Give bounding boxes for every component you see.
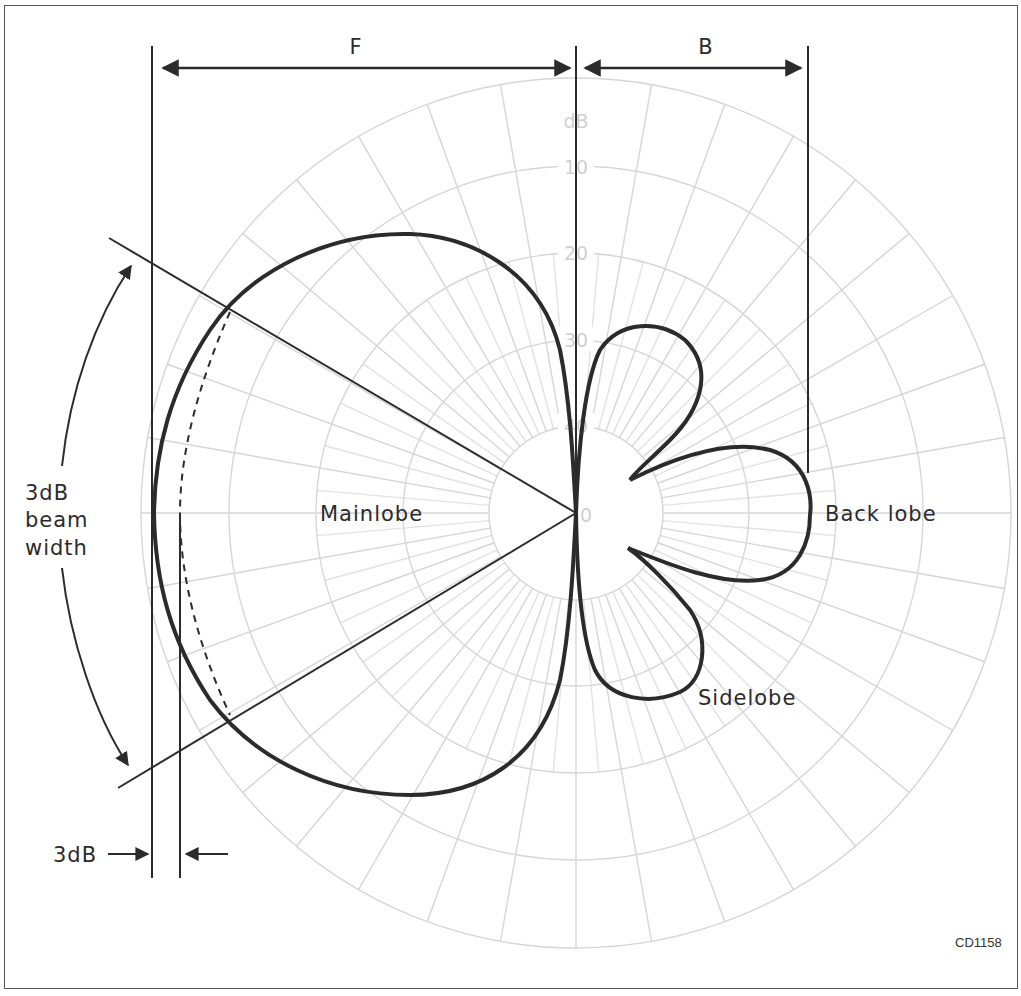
lower-side-lobe-curve bbox=[576, 513, 702, 699]
main-lobe-label: Mainlobe bbox=[320, 502, 423, 526]
back-lobe-label: Back lobe bbox=[825, 502, 937, 526]
back-dimension-label: B bbox=[698, 35, 713, 59]
beam-width-label-line3: width bbox=[25, 536, 88, 560]
back-lobe-curve bbox=[628, 447, 811, 581]
beam-width-upper-arrow bbox=[62, 266, 131, 466]
beam-width-label-line2: beam bbox=[25, 508, 89, 532]
beam-width-lower-arrow bbox=[62, 568, 128, 765]
front-dimension-label: F bbox=[349, 35, 362, 59]
figure-code: CD1158 bbox=[955, 935, 1002, 950]
beam-width-lower-line bbox=[118, 513, 576, 788]
side-lobe-label: Sidelobe bbox=[698, 686, 796, 710]
ring-label-0: 0 bbox=[580, 504, 592, 526]
radiation-pattern-diagram: dB 10 20 30 40 0 F B 3dB beam width 3dB … bbox=[0, 0, 1021, 996]
beam-width-label-line1: 3dB bbox=[25, 481, 69, 505]
three-db-marker-label: 3dB bbox=[53, 843, 97, 867]
